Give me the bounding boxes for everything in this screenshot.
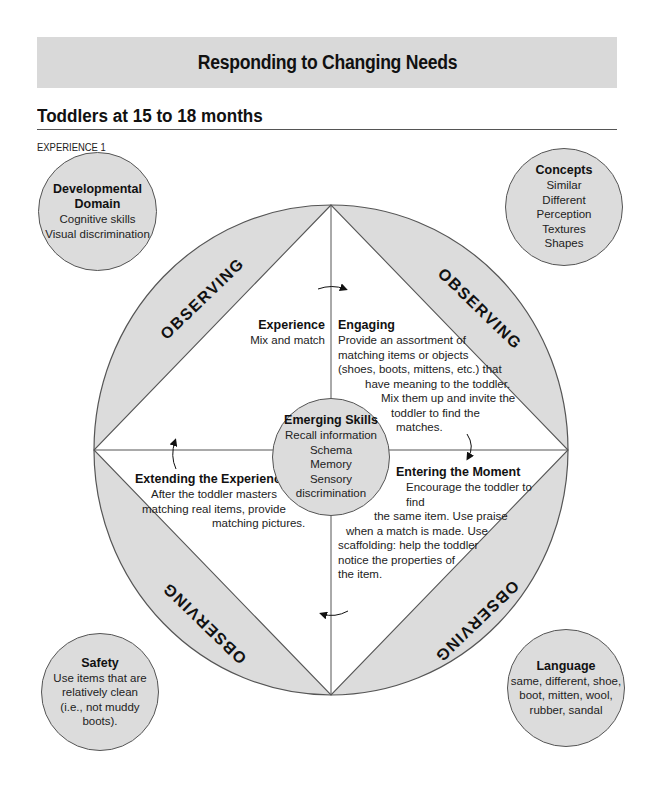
entering-line: notice the properties of [338,553,538,568]
entering-line: scaffolding: help the toddler [338,538,538,553]
arrow-bottom-clockwise-icon [322,611,348,615]
developmental-domain-title: Developmental [53,182,142,197]
engaging-line: (shoes, boots, mittens, etc.) that [338,362,538,377]
safety-item: (i.e., not muddy [60,700,139,715]
concepts-title: Concepts [536,163,593,178]
engaging-line: Provide an assortment of [338,333,538,348]
safety-bubble: Safety Use items that are relatively cle… [41,633,159,751]
engaging-line: have meaning to the toddler. [338,377,538,392]
concepts-bubble: Concepts Similar Different Perception Te… [505,148,623,266]
concepts-item: Shapes [544,236,583,251]
emerging-skills-item: Recall information [285,428,377,443]
emerging-skills-item: discrimination [296,486,366,501]
language-item: rubber, sandal [530,703,603,718]
experience-title: Experience [228,317,325,333]
safety-item: Use items that are [53,671,146,686]
engaging-title: Engaging [338,317,538,333]
extending-line: matching real items, provide [132,502,317,517]
safety-item: boots). [82,714,117,729]
language-item: same, different, shoe, [511,674,621,689]
arrow-right-clockwise-icon [467,434,471,458]
entering-line: the item. [338,567,538,582]
developmental-domain-bubble: Developmental Domain Cognitive skills Vi… [38,152,157,271]
language-item: boot, mitten, wool, [519,688,612,703]
extending-line: matching pictures. [132,516,317,531]
engaging-line: matching items or objects [338,348,538,363]
safety-title: Safety [81,656,119,671]
emerging-skills-bubble: Emerging Skills Recall information Schem… [272,398,390,516]
emerging-skills-item: Schema [310,443,352,458]
entering-line: the same item. Use praise [338,509,538,524]
safety-item: relatively clean [62,685,138,700]
concepts-item: Similar [546,178,581,193]
developmental-domain-item: Cognitive skills [59,212,135,227]
experience-block: Experience Mix and match [228,317,325,348]
entering-line: when a match is made. Use [338,524,538,539]
experience-line: Mix and match [228,333,325,348]
developmental-domain-title: Domain [75,197,121,212]
developmental-domain-item: Visual discrimination [45,227,150,242]
emerging-skills-title: Emerging Skills [284,413,378,428]
concepts-item: Perception [537,207,592,222]
language-bubble: Language same, different, shoe, boot, mi… [507,629,625,747]
language-title: Language [536,659,595,674]
engaging-line: Mix them up and invite the [338,391,538,406]
emerging-skills-item: Memory [310,457,352,472]
concepts-item: Textures [542,222,585,237]
emerging-skills-item: Sensory [310,472,352,487]
arrow-left-clockwise-icon [173,441,176,469]
concepts-item: Different [542,193,585,208]
